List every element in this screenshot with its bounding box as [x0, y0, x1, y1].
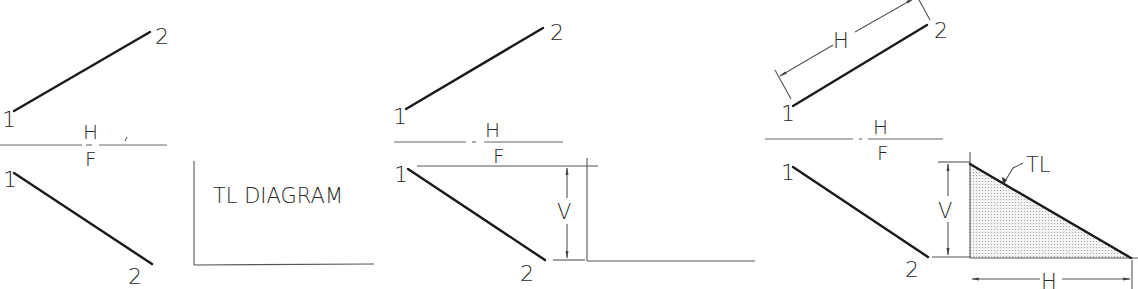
tl-label: TL: [1026, 153, 1051, 177]
true-length-diagram-figure: 1 2 H F 1 2 TL DIAGRAM 1 2 H F 1 2: [0, 0, 1138, 289]
panel-step-1: 1 2 H F 1 2 TL DIAGRAM: [0, 24, 374, 289]
front-view-point-2-label: 2: [128, 264, 142, 289]
v-dimension-label: V: [557, 200, 571, 224]
top-view-point-2-label: 2: [934, 18, 948, 43]
v-dimension-label: V: [938, 199, 952, 223]
h-dimension-right: [855, 0, 913, 32]
tl-diagram-horizontal-axis: [194, 264, 374, 265]
top-view-point-1-label: 1: [781, 101, 795, 126]
front-view-line: [793, 167, 928, 257]
top-view-line: [406, 28, 543, 109]
panel-step-2: 1 2 H F 1 2 V: [393, 20, 755, 286]
front-view-point-2-label: 2: [520, 261, 534, 286]
front-view-point-2-label: 2: [905, 257, 919, 282]
h-dimension-left: [780, 45, 833, 76]
panel-step-3: 1 2 H H F 1 2 V TL: [765, 0, 1138, 289]
h-dimension-label: H: [833, 29, 849, 53]
top-view-point-2-label: 2: [550, 20, 564, 45]
fold-line-lower-label: F: [85, 147, 97, 171]
h-dimension-label: H: [1041, 270, 1057, 289]
top-view-line: [793, 25, 927, 106]
top-view-point-2-label: 2: [155, 24, 169, 49]
top-view-point-1-label: 1: [2, 107, 16, 132]
fold-line-lower-label: F: [493, 144, 505, 168]
front-view-line: [14, 173, 152, 264]
fold-line-lower-label: F: [877, 141, 889, 165]
extension-line-2: [918, 0, 930, 20]
front-view-point-1-label: 1: [781, 160, 795, 185]
front-view-point-1-label: 1: [394, 162, 408, 187]
front-view-line: [408, 169, 545, 260]
fold-line-upper-label: H: [83, 120, 98, 144]
top-view-point-1-label: 1: [393, 104, 407, 129]
front-view-point-1-label: 1: [3, 167, 17, 192]
tl-diagram-label: TL DIAGRAM: [213, 184, 343, 208]
top-view-line: [14, 32, 150, 111]
fold-line-upper-label: H: [485, 118, 500, 142]
fold-line-upper-label: H: [873, 115, 888, 139]
